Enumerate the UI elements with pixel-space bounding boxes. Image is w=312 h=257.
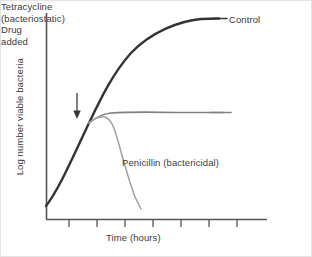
- series-label-penicillin: Penicillin (bactericidal): [122, 157, 219, 169]
- bacterial-growth-chart: Log number viable bacteria Time (hours) …: [0, 0, 312, 257]
- series-label-control: Control: [229, 14, 260, 26]
- chart-plot-area: [1, 1, 312, 257]
- x-axis-ticks: [69, 220, 237, 228]
- x-axis-label: Time (hours): [106, 232, 161, 244]
- drug-added-arrow-icon: [73, 93, 81, 119]
- y-axis-label: Log number viable bacteria: [14, 37, 26, 197]
- series-line-tetracycline: [89, 112, 223, 123]
